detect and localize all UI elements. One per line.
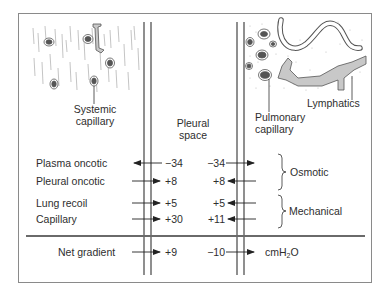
right-value-plasma-oncotic: −34: [195, 157, 225, 169]
pleural-label-line1: Pleural: [168, 117, 218, 129]
net-gradient-label: Net gradient: [58, 246, 115, 258]
lymphatic-branch: [278, 56, 366, 90]
systemic-capillary-label: Systemic capillary: [70, 103, 120, 127]
right-value-capillary: +11: [195, 213, 225, 225]
left-value-lung-recoil: +5: [165, 197, 177, 209]
force-name-capillary: Capillary: [36, 213, 77, 225]
left-value-pleural-oncotic: +8: [165, 175, 177, 187]
osmotic-group-label: Osmotic: [290, 166, 329, 178]
unit-main: cmH: [265, 246, 287, 258]
right-force-arrows: [226, 163, 256, 252]
lymphatics-label: Lymphatics: [307, 97, 360, 109]
mechanical-brace: [278, 195, 286, 228]
pleural-label-line2: space: [168, 129, 218, 141]
pulmonary-label-line2: capillary: [255, 123, 305, 135]
left-value-plasma-oncotic: −34: [165, 157, 183, 169]
force-name-lung-recoil: Lung recoil: [36, 197, 87, 209]
right-value-lung-recoil: +5: [195, 197, 225, 209]
pleural-space-label: Pleural space: [168, 117, 218, 141]
diagram-frame: [19, 14, 372, 283]
mechanical-group-label: Mechanical: [289, 205, 342, 217]
systemic-label-line2: capillary: [70, 115, 120, 127]
right-value-pleural-oncotic: +8: [195, 175, 225, 187]
left-value-net: +9: [165, 246, 177, 258]
left-force-arrows: [132, 163, 162, 252]
pulmonary-cells: [246, 29, 277, 81]
force-name-plasma-oncotic: Plasma oncotic: [36, 157, 107, 169]
pulmonary-capillary-label: Pulmonary capillary: [255, 111, 305, 135]
unit-label: cmH2O: [265, 246, 299, 258]
unit-end: O: [291, 246, 299, 258]
systemic-cells: [44, 35, 115, 90]
left-value-capillary: +30: [165, 213, 183, 225]
force-name-pleural-oncotic: Pleural oncotic: [36, 175, 105, 187]
pulmonary-label-line1: Pulmonary: [255, 111, 305, 123]
osmotic-brace: [278, 154, 286, 190]
systemic-vessel: [93, 24, 104, 53]
systemic-label-line1: Systemic: [70, 103, 120, 115]
right-value-net: −10: [195, 246, 225, 258]
